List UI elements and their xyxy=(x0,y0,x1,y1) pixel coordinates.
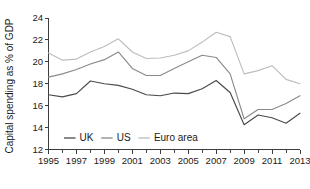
x-axis-tick-label: 1997 xyxy=(66,155,87,166)
x-axis-tick-label: 1999 xyxy=(94,155,115,166)
y-axis-tick-label: 12 xyxy=(32,144,43,155)
legend-label-us: US xyxy=(117,132,131,143)
x-axis-tick-label: 2003 xyxy=(150,155,171,166)
legend-label-uk: UK xyxy=(80,132,94,143)
y-axis-tick-label: 20 xyxy=(32,56,43,67)
x-axis-tick-label: 2009 xyxy=(234,155,255,166)
x-axis: 1995199719992001200320052007200920112013 xyxy=(38,150,310,167)
x-axis-tick-label: 2005 xyxy=(178,155,199,166)
capital-spending-line-chart: 12141618202224 1995199719992001200320052… xyxy=(0,0,310,189)
series-line-euro-area xyxy=(49,32,301,84)
y-axis-tick-label: 22 xyxy=(32,34,43,45)
legend-label-euro-area: Euro area xyxy=(154,132,198,143)
x-axis-tick-label: 1995 xyxy=(38,155,59,166)
x-axis-tick-label: 2013 xyxy=(289,155,310,166)
chart-legend: UKUSEuro area xyxy=(64,132,198,143)
y-axis-tick-label: 14 xyxy=(32,122,43,133)
x-axis-tick-label: 2007 xyxy=(206,155,227,166)
series-line-uk xyxy=(49,80,301,124)
chart-plot-area: 12141618202224 1995199719992001200320052… xyxy=(0,0,310,189)
series-lines xyxy=(49,32,301,125)
y-axis-tick-label: 18 xyxy=(32,78,43,89)
x-axis-tick-label: 2011 xyxy=(262,155,282,166)
y-axis: 12141618202224 xyxy=(32,12,48,155)
y-axis-title: Capital spending as % of GDP xyxy=(4,18,15,153)
y-axis-tick-label: 16 xyxy=(32,100,43,111)
y-axis-tick-label: 24 xyxy=(32,12,43,23)
x-axis-tick-label: 2001 xyxy=(122,155,143,166)
